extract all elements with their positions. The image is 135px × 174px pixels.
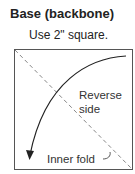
leader-line bbox=[103, 152, 110, 159]
reverse-label-1: Reverse bbox=[79, 89, 122, 101]
reverse-label-2: side bbox=[79, 103, 100, 115]
inner-fold-label: Inner fold bbox=[47, 153, 95, 165]
fold-diagram: Reverse side Inner fold bbox=[0, 0, 135, 174]
arrowhead-icon bbox=[26, 150, 34, 160]
fold-arrow-curve bbox=[30, 56, 126, 155]
